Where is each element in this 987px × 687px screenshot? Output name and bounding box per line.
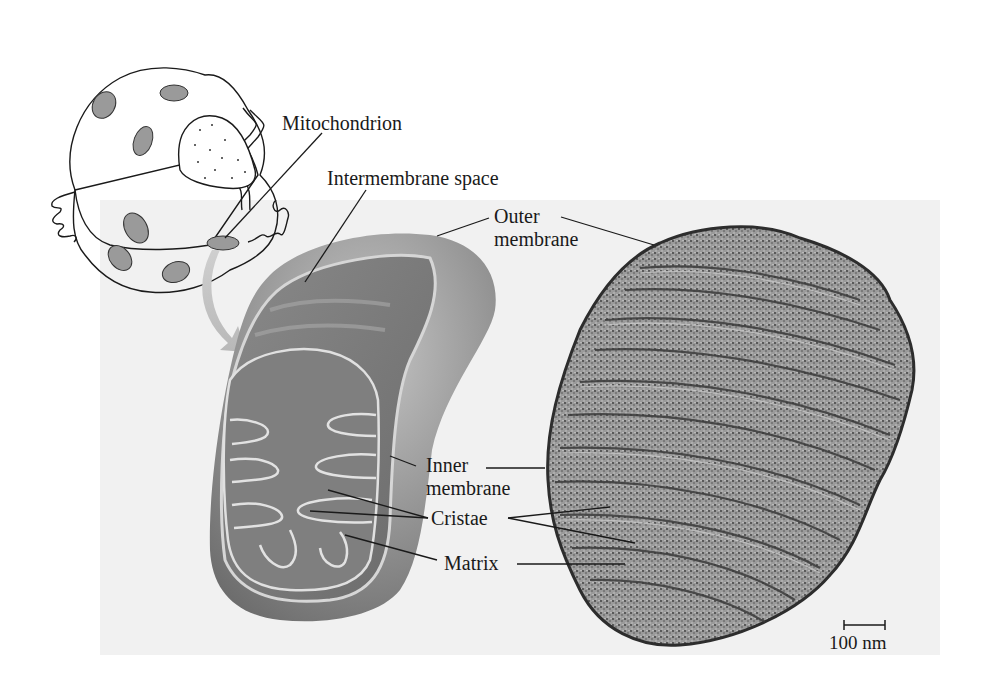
figure: Mitochondrion Intermembrane space Outer …: [0, 0, 987, 687]
label-matrix: Matrix: [444, 552, 498, 574]
label-outer-membrane-line2: membrane: [494, 228, 578, 251]
inner-membrane-shape: [224, 349, 379, 590]
figure-artwork: [0, 0, 987, 687]
label-outer-membrane-line1: Outer: [494, 205, 578, 228]
label-outer-membrane: Outer membrane: [494, 205, 578, 251]
scale-bar-label: 100 nm: [829, 632, 887, 654]
label-intermembrane-space: Intermembrane space: [327, 167, 499, 189]
label-inner-membrane-line1: Inner: [426, 454, 510, 477]
label-inner-membrane-line2: membrane: [426, 477, 510, 500]
label-mitochondrion: Mitochondrion: [282, 112, 402, 134]
electron-micrograph: [548, 227, 914, 646]
label-cristae: Cristae: [431, 507, 488, 529]
nucleus: [179, 116, 256, 189]
scale-bar: [844, 620, 885, 630]
leader-outer-left: [437, 218, 489, 236]
cell-sketch: [52, 68, 289, 293]
label-inner-membrane: Inner membrane: [426, 454, 510, 500]
microvilli-left: [52, 192, 76, 242]
